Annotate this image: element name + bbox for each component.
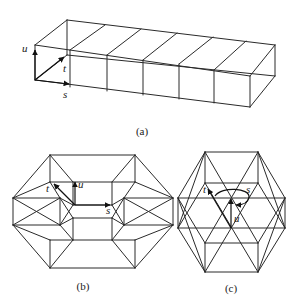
edge-line (135, 182, 173, 198)
panel-b-caption: (b) (77, 280, 90, 293)
edge-line (214, 41, 246, 70)
panel-a-label-t: t (63, 62, 67, 74)
edge-line (67, 20, 275, 45)
edge-line (179, 37, 213, 64)
edge-line (250, 45, 275, 76)
panel-b-label-t: t (46, 182, 50, 194)
edge-line (50, 240, 73, 268)
edge-line (13, 225, 50, 240)
axis-arrow-t-icon (208, 189, 231, 228)
panel-c-label-s: s (246, 183, 250, 195)
panel-c-label-u: u (234, 212, 240, 224)
panel-c-hexagonal-projection: u t s (c) (178, 152, 285, 295)
edge-line (67, 55, 275, 76)
edge-line (143, 33, 177, 60)
edge-line (112, 155, 135, 182)
edge-line (124, 182, 135, 198)
panel-b-hexagonal-projection: u t s (b) (13, 155, 173, 293)
panel-a-label-s: s (63, 88, 67, 100)
panel-c-axes (208, 189, 231, 228)
diagram-canvas: u t s (a) u t s (b) u t s (c) (0, 0, 303, 307)
edge-line (13, 225, 50, 268)
edge-line (107, 29, 141, 55)
panel-b-edges (13, 155, 173, 268)
edge-line (135, 155, 173, 198)
panel-a-label-u: u (22, 42, 28, 54)
edge-line (135, 225, 173, 240)
edge-line (112, 225, 124, 240)
axis-arrow-s-icon (35, 80, 69, 84)
panel-a-box-prism: u t s (a) (22, 20, 275, 138)
panel-b-label-s: s (106, 204, 110, 216)
edge-line (60, 225, 73, 240)
edge-line (13, 182, 50, 198)
edge-line (112, 240, 135, 268)
edge-line (13, 155, 50, 198)
panel-a-caption: (a) (136, 125, 149, 138)
edge-line (35, 20, 67, 45)
axis-arrow-t-icon (35, 57, 64, 80)
edge-line (135, 225, 173, 268)
panel-c-caption: (c) (225, 282, 238, 295)
edge-line (250, 76, 275, 107)
panel-b-label-u: u (78, 178, 84, 190)
axis-arrow-t-icon (54, 184, 75, 205)
edge-line (70, 25, 105, 50)
panel-a-edges (35, 20, 275, 107)
edge-line (50, 155, 73, 182)
